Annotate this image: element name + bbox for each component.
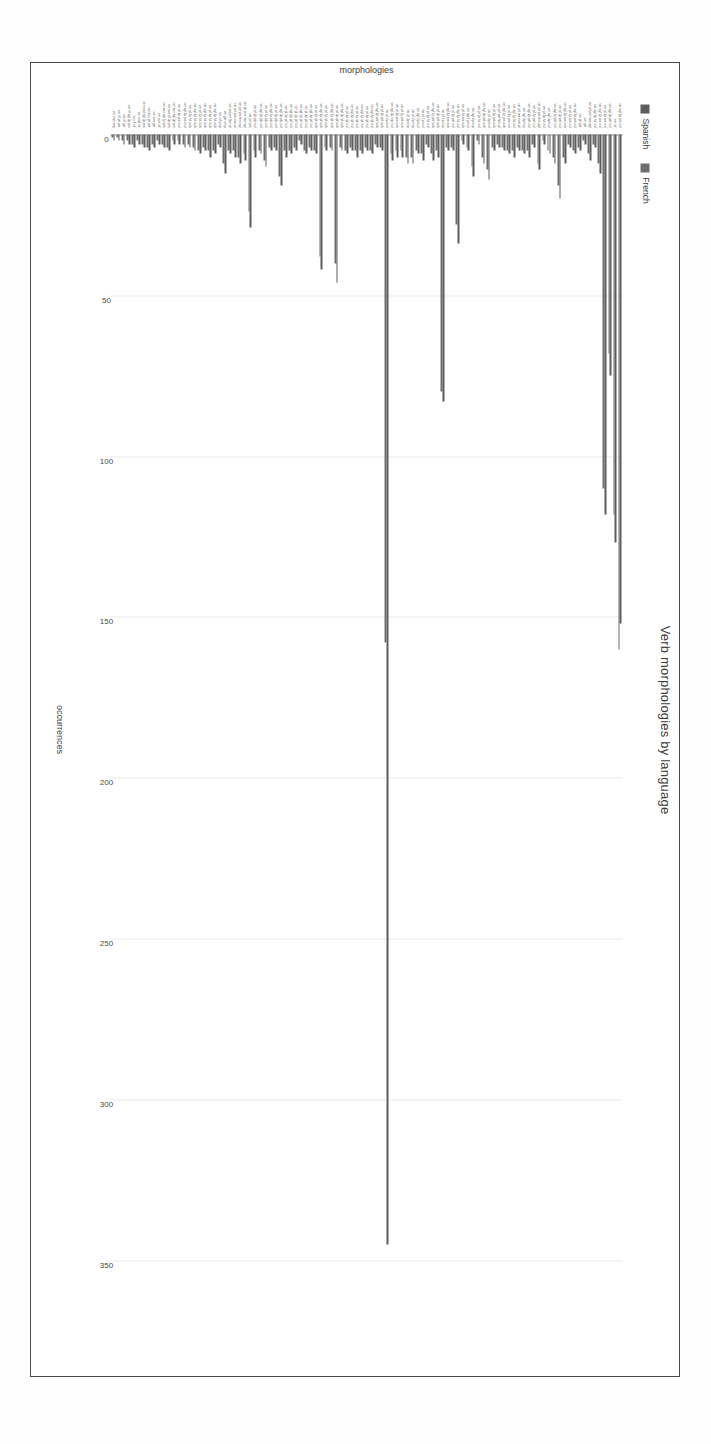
bar-french: [177, 134, 179, 140]
bar-french: [455, 134, 457, 224]
bar-french: [232, 134, 234, 150]
chart-title: Verb morphologies by language: [657, 64, 672, 1375]
category-label: ver pl 3p prs ind: [603, 104, 606, 127]
category-label: ver sgl 3p prf ind: [309, 103, 312, 127]
value-axis-tick-label: 200: [99, 777, 112, 786]
category-label: ver pl 3p imp: [405, 109, 408, 127]
category-label: ver sgl 3p fut ind: [593, 104, 596, 127]
bar-french: [410, 134, 412, 157]
legend-item-french[interactable]: French: [640, 163, 650, 203]
bar-french: [212, 134, 214, 150]
category-label: ver sgl 3p plp ind: [278, 103, 281, 127]
category-label: ver sgl 2p prs ind: [572, 103, 575, 127]
category-label: ver pl 2p plp ind: [253, 104, 256, 127]
bar-french: [618, 134, 620, 649]
category-label: ver sgl 2p ipf sub: [319, 103, 322, 127]
category-label: ver pl 2p pst ind: [451, 104, 454, 127]
gridline: [110, 456, 622, 457]
category-label: ver sgl 2p cnd: [415, 107, 418, 127]
category-label: ver inf: [613, 118, 616, 127]
bar-french: [288, 134, 290, 150]
bar-french: [187, 134, 189, 144]
bar-french: [167, 134, 169, 147]
bar-french: [207, 134, 209, 150]
category-label: ver pl 1p prs sub: [461, 103, 464, 127]
bar-french: [552, 134, 554, 157]
bar-french: [547, 134, 549, 150]
bar-french: [349, 134, 351, 147]
category-label: ver prt prs: [248, 113, 251, 127]
legend-item-spanish[interactable]: Spanish: [640, 104, 650, 149]
bar-french: [222, 134, 224, 163]
bar-french: [182, 134, 184, 144]
gridline: [110, 938, 622, 939]
bar-french: [557, 134, 559, 185]
chart-figure-frame: Verb morphologies by language Spanish Fr…: [30, 62, 680, 1377]
category-label: ver sgl 3p imp ind: [390, 102, 393, 127]
bar-french: [156, 134, 158, 140]
category-label: ver aux prt pst: [146, 107, 149, 127]
bar-french: [374, 134, 376, 144]
category-label: ver rfl inf: [131, 115, 134, 127]
bar-french: [227, 134, 229, 150]
category-label: ver sgl 3p prs cnd: [182, 102, 185, 127]
bar-french: [293, 134, 295, 147]
category-label: ver rfl sgl 3p prs: [126, 104, 129, 127]
category-label: ver prt prs msc pl: [233, 103, 236, 127]
bar-french: [278, 134, 280, 176]
bar-french: [161, 134, 163, 144]
category-label: ver sgl 3p ipf sub: [339, 103, 342, 127]
category-label: ver sgl 2p pst ind: [527, 103, 530, 127]
bar-french: [511, 134, 513, 150]
bar-french: [253, 134, 255, 150]
bar-french: [461, 134, 463, 140]
category-label: ver pl 1p plp ind: [263, 104, 266, 127]
bar-french: [298, 134, 300, 140]
category-label: ver aux sgl 1p prs: [162, 102, 165, 127]
value-axis-tick-label: 150: [99, 616, 112, 625]
bar-french: [354, 134, 356, 150]
bar-french: [567, 134, 569, 144]
gridline: [110, 616, 622, 617]
bar-french: [248, 134, 250, 211]
category-label: ver prt pst fem sgl: [537, 102, 540, 127]
bar-french: [572, 134, 574, 150]
category-label: ver pl 3p plp ind: [273, 104, 276, 127]
category-label: ver sgl 2p ipf ind: [349, 104, 352, 127]
bar-french: [602, 134, 604, 488]
rotated-chart-canvas: Verb morphologies by language Spanish Fr…: [32, 64, 678, 1375]
category-label: ver sgl 2p prs sub: [446, 102, 449, 127]
bar-french: [420, 134, 422, 153]
legend-label-spanish: Spanish: [640, 118, 650, 149]
bar-french: [466, 134, 468, 147]
y-axis-label-text: morphologies: [339, 64, 393, 74]
category-label: ver pl 3p pst ind: [557, 104, 560, 127]
category-label: ver aux inf: [157, 112, 160, 127]
bar-french: [425, 134, 427, 144]
category-label: ver sgl 1p ipf sub: [329, 103, 332, 127]
bar-french: [445, 134, 447, 147]
category-label: ver pl 3p ipf sub: [334, 104, 337, 127]
gridline: [110, 1099, 622, 1100]
category-label: ver pl 1p prs ind: [567, 104, 570, 127]
category-label: ver sgl 1p prs sub: [501, 102, 504, 127]
category-label: ver aux sgl 3p prs: [172, 102, 175, 127]
category-label: ver pl 3p pst sub: [435, 104, 438, 127]
bar-french: [141, 134, 143, 144]
bar-french: [172, 134, 174, 140]
bar-french: [613, 134, 615, 514]
category-label: ver aux ger: [151, 111, 154, 127]
bar-french: [283, 134, 285, 150]
bar-french: [592, 134, 594, 144]
bar-french: [121, 134, 123, 140]
bar-french: [131, 134, 133, 144]
bar-french: [608, 134, 610, 353]
category-label: ver pl 2p pst sub: [380, 104, 383, 127]
bar-french: [597, 134, 599, 163]
category-label: ver pl 1p prf ind: [293, 105, 296, 127]
category-label: ver pl 2p prf ind: [283, 105, 286, 127]
bar-french: [151, 134, 153, 144]
legend-swatch-spanish: [641, 104, 650, 113]
value-axis-tick-label: 300: [99, 1099, 112, 1108]
value-axis-tick-label: 100: [99, 456, 112, 465]
